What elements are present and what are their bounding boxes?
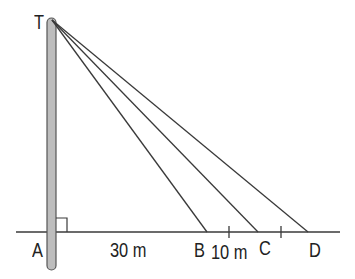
line-TC	[52, 20, 258, 232]
pole	[47, 18, 56, 270]
label-BC-length: 10 m	[211, 242, 247, 262]
label-D: D	[309, 240, 321, 260]
label-B: B	[194, 240, 205, 260]
label-A: A	[32, 240, 43, 260]
diagram-svg	[0, 0, 355, 279]
diagram-canvas: T A 30 m B 10 m C D	[0, 0, 355, 279]
label-T: T	[34, 12, 44, 32]
line-TB	[52, 20, 207, 232]
label-AB-length: 30 m	[110, 240, 146, 260]
line-TD	[52, 20, 308, 232]
right-angle-marker	[56, 218, 67, 232]
label-C: C	[259, 238, 271, 258]
